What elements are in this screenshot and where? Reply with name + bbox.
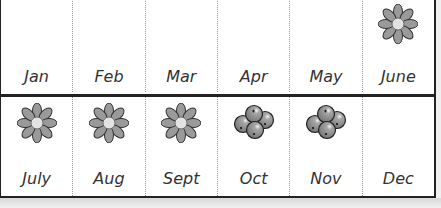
- month-cell-sept: Sept: [146, 97, 218, 196]
- month-label: Feb: [73, 67, 144, 86]
- flower-icon: [378, 4, 418, 44]
- month-label: Sept: [146, 169, 217, 188]
- seasonal-calendar: Jan Feb Mar Apr May June July Aug Sep: [0, 0, 436, 198]
- flower-icon: [17, 103, 57, 143]
- month-cell-dec: Dec: [363, 97, 434, 196]
- month-label: Jan: [1, 67, 72, 86]
- month-cell-nov: Nov: [290, 97, 362, 196]
- month-label: Nov: [290, 169, 361, 188]
- month-label: Oct: [218, 169, 289, 188]
- month-label: Aug: [73, 169, 144, 188]
- month-cell-mar: Mar: [146, 0, 218, 92]
- month-cell-aug: Aug: [73, 97, 145, 196]
- month-label: June: [363, 67, 434, 86]
- flower-icon: [161, 103, 201, 143]
- month-cell-may: May: [290, 0, 362, 92]
- month-label: Dec: [363, 169, 434, 188]
- month-label: July: [1, 169, 72, 188]
- month-cell-feb: Feb: [73, 0, 145, 92]
- calendar-row-july-dec: July Aug Sept Oct Nov Dec: [1, 94, 434, 196]
- month-cell-july: July: [1, 97, 73, 196]
- berries-icon: [304, 103, 348, 141]
- flower-icon: [89, 103, 129, 143]
- calendar-row-jan-june: Jan Feb Mar Apr May June: [1, 0, 434, 92]
- berries-icon: [232, 103, 276, 141]
- month-cell-apr: Apr: [218, 0, 290, 92]
- month-cell-june: June: [363, 0, 434, 92]
- month-cell-oct: Oct: [218, 97, 290, 196]
- month-cell-jan: Jan: [1, 0, 73, 92]
- month-label: Mar: [146, 67, 217, 86]
- drop-shadow: [0, 198, 441, 208]
- month-label: May: [290, 67, 361, 86]
- month-label: Apr: [218, 67, 289, 86]
